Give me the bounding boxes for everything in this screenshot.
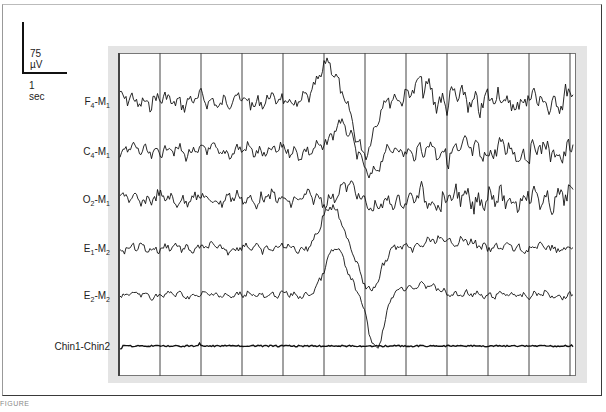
scale-bar-time-label: 1 sec (29, 80, 45, 102)
waveform-c4-m1 (120, 119, 573, 178)
channel-label-e1-m2: E1-M2 (84, 243, 110, 256)
channel-label-c4-m1: C4-M1 (83, 146, 110, 159)
scale-bar-horizontal (22, 72, 67, 74)
channel-label-f4-m1: F4-M1 (84, 96, 110, 109)
waveform-e1-m2 (120, 205, 573, 291)
channel-label-o2-m1: O2-M1 (83, 194, 110, 207)
waveform-o2-m1 (120, 181, 573, 215)
channel-label-chin1-chin2: Chin1-Chin2 (54, 341, 110, 352)
waveform-f4-m1 (120, 58, 573, 160)
scale-bar-vertical (22, 22, 24, 74)
channel-label-e2-m2: E2-M2 (84, 290, 110, 303)
waveforms (120, 58, 573, 349)
waveform-e2-m2 (120, 249, 573, 349)
scale-bar-amplitude-label: 75 µV (30, 48, 42, 70)
figure-caption: FIGURE (0, 400, 29, 407)
waveform-chin1-chin2 (120, 343, 573, 349)
eeg-traces (118, 53, 576, 376)
